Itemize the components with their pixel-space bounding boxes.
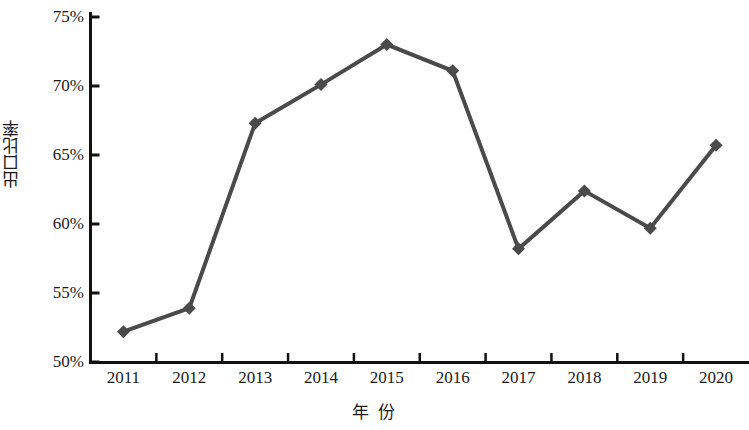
x-axis-title: 年 份 <box>0 398 749 423</box>
data-point-marker <box>446 64 459 77</box>
x-tick-label: 2012 <box>159 369 219 386</box>
x-tick-label: 2011 <box>93 369 153 386</box>
x-tick-label: 2016 <box>423 369 483 386</box>
x-axis-ticks <box>156 353 683 362</box>
data-point-marker <box>183 302 196 315</box>
x-tick-label: 2015 <box>357 369 417 386</box>
x-tick-label: 2014 <box>291 369 351 386</box>
x-tick-label: 2013 <box>225 369 285 386</box>
plot-area <box>0 0 749 430</box>
data-point-marker <box>117 325 130 338</box>
data-series-line <box>123 45 716 332</box>
line-chart: 出口比率 50%55%60%65%70%75% 2011201220132014… <box>0 0 749 430</box>
x-tick-label: 2017 <box>489 369 549 386</box>
x-tick-label: 2018 <box>554 369 614 386</box>
x-tick-label: 2019 <box>620 369 680 386</box>
x-tick-label: 2020 <box>686 369 746 386</box>
data-point-markers <box>117 38 723 338</box>
